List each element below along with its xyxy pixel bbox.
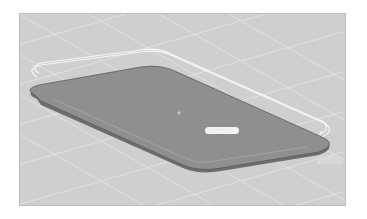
dimension-label[interactable]: · · · · · · · [205,127,239,134]
viewport-scene[interactable] [20,14,345,205]
3d-viewport[interactable] [19,13,346,206]
plate-body [30,66,330,172]
corner-annotation-tag: · · · · · [317,156,343,164]
